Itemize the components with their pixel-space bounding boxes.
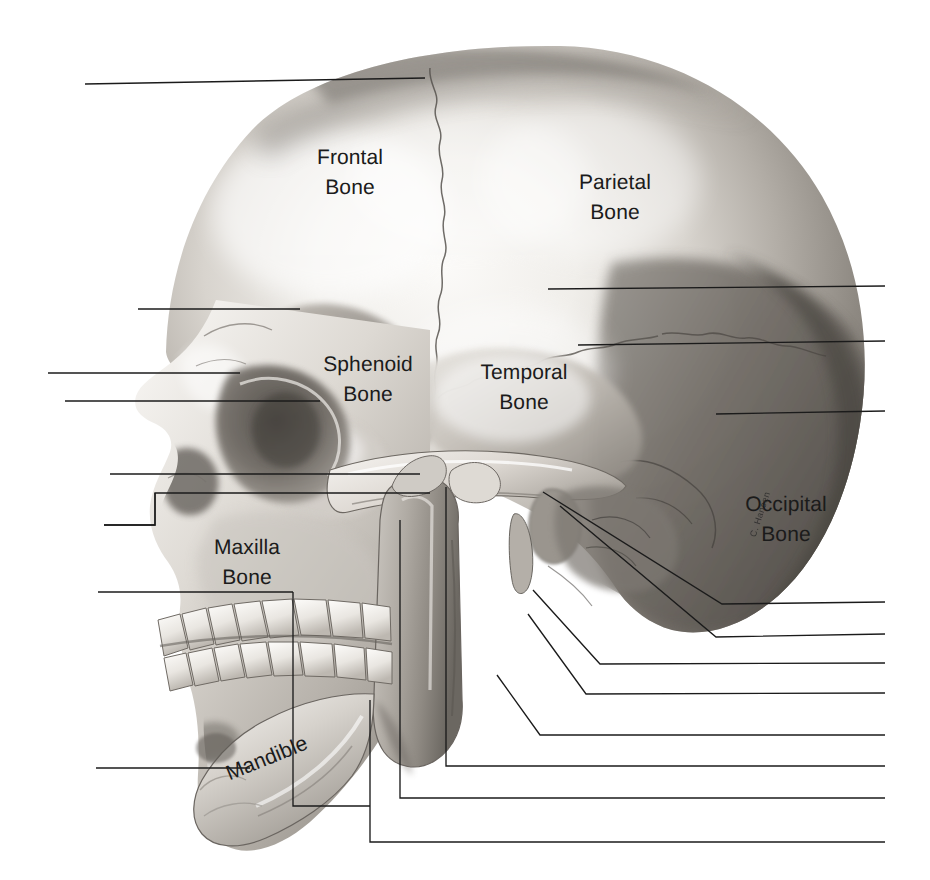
leader-lines-group	[0, 0, 930, 880]
leader-line-bottom-2[interactable]	[400, 520, 885, 798]
leader-line-right-6[interactable]	[533, 590, 885, 664]
leader-line-right-7[interactable]	[528, 614, 885, 694]
label-temporal-bone: Temporal Bone	[452, 358, 596, 418]
skull-diagram-page: Frontal Bone Parietal Bone Sphenoid Bone…	[0, 0, 930, 880]
leader-line-right-8[interactable]	[497, 675, 885, 735]
label-maxilla-bone: Maxilla Bone	[180, 533, 314, 593]
leader-line-right-3[interactable]	[716, 411, 885, 414]
label-occipital-bone: Occipital Bone	[716, 490, 856, 550]
leader-line-right-2[interactable]	[578, 341, 885, 345]
leader-line-left-6[interactable]	[104, 493, 430, 525]
label-frontal-bone: Frontal Bone	[278, 143, 422, 203]
leader-line-left-1[interactable]	[85, 78, 425, 84]
label-parietal-bone: Parietal Bone	[540, 168, 690, 228]
leader-line-bottom-3[interactable]	[370, 700, 885, 842]
label-sphenoid-bone: Sphenoid Bone	[296, 350, 440, 410]
leader-line-bottom-4[interactable]	[293, 592, 370, 806]
leader-line-right-1[interactable]	[548, 286, 885, 289]
maxilla-label-frame	[104, 493, 155, 525]
